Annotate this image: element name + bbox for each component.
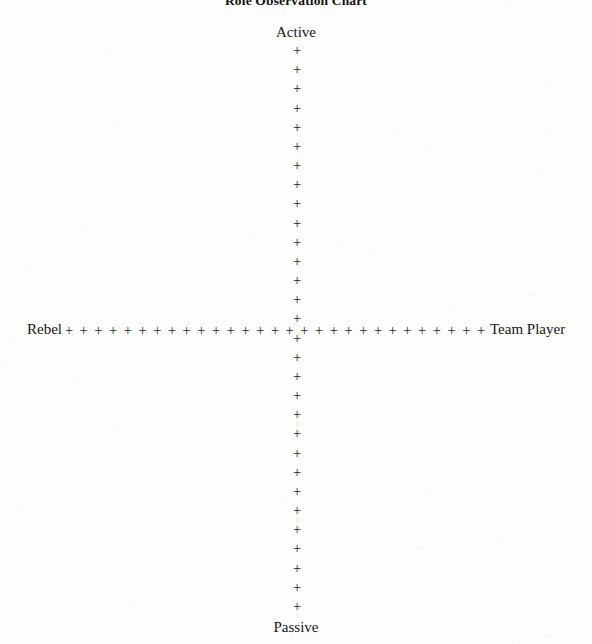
axis-tick-plus: + bbox=[462, 323, 470, 338]
axis-tick-plus: + bbox=[300, 323, 308, 338]
axis-tick-plus: + bbox=[330, 323, 338, 338]
axis-tick-plus: + bbox=[138, 323, 146, 338]
axis-tick-plus: + bbox=[80, 323, 88, 338]
axis-tick-plus: + bbox=[344, 323, 352, 338]
axis-tick-plus: + bbox=[315, 323, 323, 338]
axis-tick-plus: + bbox=[286, 323, 294, 338]
axis-tick-plus: + bbox=[197, 323, 205, 338]
axis-tick-plus: + bbox=[109, 323, 117, 338]
axis-tick-plus: + bbox=[241, 323, 249, 338]
axis-tick-plus: + bbox=[477, 323, 485, 338]
axis-tick-plus: + bbox=[153, 323, 161, 338]
axis-tick-plus: + bbox=[65, 323, 73, 338]
axis-label-active: Active bbox=[0, 24, 592, 41]
role-observation-chart: Role Observation Chart +++++++++++++++++… bbox=[0, 0, 592, 644]
axis-tick-plus: + bbox=[447, 323, 455, 338]
axis-tick-plus: + bbox=[227, 323, 235, 338]
axis-tick-plus: + bbox=[433, 323, 441, 338]
axis-tick-plus: + bbox=[94, 323, 102, 338]
axis-tick-plus: + bbox=[271, 323, 279, 338]
axis-tick-plus: + bbox=[403, 323, 411, 338]
axis-tick-plus: + bbox=[389, 323, 397, 338]
axis-tick-plus: + bbox=[212, 323, 220, 338]
axis-tick-plus: + bbox=[183, 323, 191, 338]
axis-label-passive: Passive bbox=[0, 619, 592, 636]
axis-tick-plus: + bbox=[168, 323, 176, 338]
axis-tick-plus: + bbox=[256, 323, 264, 338]
axis-label-team-player: Team Player bbox=[490, 321, 565, 338]
axis-tick-plus: + bbox=[374, 323, 382, 338]
axis-label-rebel: Rebel bbox=[0, 321, 62, 338]
axis-tick-plus: + bbox=[359, 323, 367, 338]
axis-tick-plus: + bbox=[418, 323, 426, 338]
axis-tick-plus: + bbox=[124, 323, 132, 338]
